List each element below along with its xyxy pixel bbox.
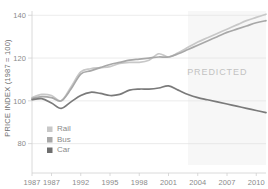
predicted-region-shading bbox=[188, 11, 266, 165]
xtick-label-7: 2007 bbox=[218, 178, 235, 187]
predicted-shading-group bbox=[188, 11, 266, 165]
legend-label-car: Car bbox=[57, 145, 70, 154]
chart-canvas: 80100120140 1987198719921995199820012004… bbox=[0, 0, 268, 189]
y-axis-title: PRICE INDEX (1987 = 100) bbox=[3, 39, 12, 137]
ytick-label-120: 120 bbox=[13, 54, 26, 63]
legend-label-bus: Bus bbox=[57, 135, 71, 144]
xtick-label-5: 2001 bbox=[160, 178, 177, 187]
xtick-label-3: 1995 bbox=[101, 178, 118, 187]
annotation-group: PREDICTED bbox=[187, 67, 247, 77]
xtick-label-0: 1987 bbox=[23, 178, 40, 187]
legend-swatch-car bbox=[47, 148, 53, 154]
legend-label-rail: Rail bbox=[57, 124, 71, 133]
xtick-label-6: 2004 bbox=[189, 178, 206, 187]
legend-group: RailBusCar bbox=[47, 124, 71, 154]
ytick-label-group: 80100120140 bbox=[13, 11, 26, 148]
ytick-label-80: 80 bbox=[17, 139, 26, 148]
xtick-label-4: 1998 bbox=[131, 178, 148, 187]
ytick-label-100: 100 bbox=[13, 97, 26, 106]
y-axis-title-group: PRICE INDEX (1987 = 100) bbox=[3, 39, 12, 137]
xtick-label-2: 1992 bbox=[72, 178, 89, 187]
xtick-label-group: 198719871992199519982001200420072010 bbox=[23, 178, 264, 187]
legend-swatch-rail bbox=[47, 127, 53, 133]
price-index-line-chart: 80100120140 1987198719921995199820012004… bbox=[0, 0, 268, 189]
ytick-label-140: 140 bbox=[13, 11, 26, 20]
xtick-label-8: 2010 bbox=[248, 178, 265, 187]
annotation-predicted: PREDICTED bbox=[187, 67, 247, 77]
legend-swatch-bus bbox=[47, 137, 53, 143]
xtick-label-1: 1987 bbox=[43, 178, 60, 187]
